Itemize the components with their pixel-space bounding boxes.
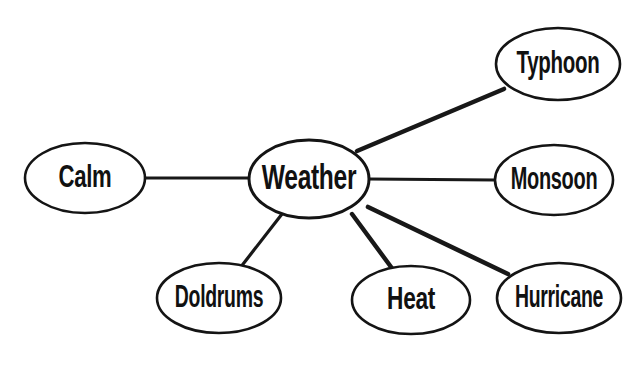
node-label-heat: Heat [387, 281, 435, 317]
node-doldrums[interactable]: Doldrums [157, 263, 281, 333]
node-weather[interactable]: Weather [249, 140, 369, 218]
concept-map-svg: CalmTyphoonMonsoonHurricaneHeatDoldrumsW… [0, 0, 638, 371]
node-hurricane[interactable]: Hurricane [497, 263, 621, 333]
node-label-weather: Weather [262, 157, 357, 196]
node-typhoon[interactable]: Typhoon [496, 28, 620, 100]
node-label-monsoon: Monsoon [511, 161, 598, 197]
node-label-doldrums: Doldrums [175, 278, 263, 314]
concept-map-canvas: CalmTyphoonMonsoonHurricaneHeatDoldrumsW… [0, 0, 638, 371]
node-label-typhoon: Typhoon [517, 45, 600, 81]
edge-weather-heat [352, 214, 394, 271]
edge-weather-monsoon [369, 179, 495, 180]
nodes-layer: CalmTyphoonMonsoonHurricaneHeatDoldrumsW… [25, 28, 621, 334]
node-calm[interactable]: Calm [25, 143, 145, 213]
node-label-calm: Calm [59, 158, 112, 194]
node-heat[interactable]: Heat [352, 266, 470, 334]
edge-weather-doldrums [240, 214, 282, 268]
edge-weather-typhoon [357, 89, 504, 151]
node-monsoon[interactable]: Monsoon [495, 145, 613, 215]
node-label-hurricane: Hurricane [515, 278, 603, 314]
